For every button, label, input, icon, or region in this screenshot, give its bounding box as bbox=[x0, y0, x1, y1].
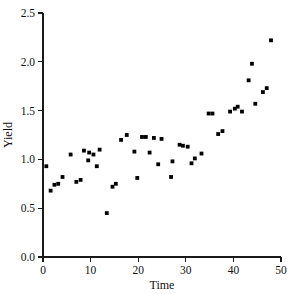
data-point bbox=[61, 175, 65, 179]
x-tick-label: 30 bbox=[180, 264, 192, 276]
data-point bbox=[200, 152, 204, 156]
data-point bbox=[74, 180, 78, 184]
x-tick-label: 50 bbox=[275, 264, 287, 276]
data-point bbox=[216, 132, 220, 136]
data-point bbox=[95, 164, 99, 168]
data-point bbox=[82, 149, 86, 153]
data-point bbox=[49, 189, 53, 193]
data-point bbox=[140, 135, 144, 139]
data-point bbox=[111, 185, 115, 189]
data-point bbox=[171, 159, 175, 163]
axes bbox=[43, 13, 281, 257]
data-point bbox=[144, 135, 148, 139]
data-point bbox=[53, 183, 57, 187]
data-point bbox=[190, 161, 194, 165]
data-point bbox=[207, 112, 211, 116]
y-tick-label: 0.0 bbox=[21, 251, 36, 263]
x-axis-ticks: 01020304050 bbox=[40, 257, 287, 276]
data-point bbox=[236, 105, 240, 109]
x-axis-title: Time bbox=[150, 278, 175, 292]
data-point bbox=[44, 164, 48, 168]
x-tick-label: 20 bbox=[132, 264, 144, 276]
data-point bbox=[181, 144, 185, 148]
data-point bbox=[135, 176, 139, 180]
plot-canvas: 0.00.51.01.52.02.5 01020304050 Time Yiel… bbox=[0, 0, 296, 294]
y-tick-label: 1.5 bbox=[21, 105, 36, 117]
data-point bbox=[221, 129, 225, 133]
data-point bbox=[228, 110, 232, 114]
y-axis-title: Yield bbox=[1, 122, 15, 148]
data-point bbox=[265, 86, 269, 90]
scatter-plot-figure: 0.00.51.01.52.02.5 01020304050 Time Yiel… bbox=[0, 0, 296, 294]
x-tick-label: 0 bbox=[40, 264, 46, 276]
data-point bbox=[114, 182, 118, 186]
data-point bbox=[156, 162, 160, 166]
data-point bbox=[119, 138, 123, 142]
data-point bbox=[125, 133, 129, 137]
data-point bbox=[247, 78, 251, 82]
y-tick-label: 2.5 bbox=[21, 7, 36, 19]
data-point bbox=[56, 182, 60, 186]
y-tick-label: 2.0 bbox=[21, 56, 36, 68]
data-point bbox=[152, 136, 156, 140]
data-point bbox=[269, 38, 273, 42]
x-tick-label: 40 bbox=[228, 264, 240, 276]
x-tick-label: 10 bbox=[85, 264, 97, 276]
data-point bbox=[98, 148, 102, 152]
data-point bbox=[86, 158, 90, 162]
data-point bbox=[261, 90, 265, 94]
data-point bbox=[186, 145, 190, 149]
data-point bbox=[193, 157, 197, 161]
data-point bbox=[250, 62, 254, 66]
y-tick-label: 0.5 bbox=[21, 202, 36, 214]
data-point bbox=[105, 211, 109, 215]
data-point bbox=[169, 175, 173, 179]
data-point bbox=[148, 151, 152, 155]
data-point bbox=[240, 110, 244, 114]
data-point bbox=[178, 143, 182, 147]
data-point bbox=[160, 137, 164, 141]
y-axis-ticks: 0.00.51.01.52.02.5 bbox=[21, 7, 43, 263]
data-point bbox=[132, 150, 136, 154]
data-points-group bbox=[44, 38, 272, 215]
data-point bbox=[211, 112, 215, 116]
data-point bbox=[69, 153, 73, 157]
data-point bbox=[87, 151, 91, 155]
data-point bbox=[79, 178, 83, 182]
data-point bbox=[92, 153, 96, 157]
data-point bbox=[253, 102, 257, 106]
y-tick-label: 1.0 bbox=[21, 153, 36, 165]
